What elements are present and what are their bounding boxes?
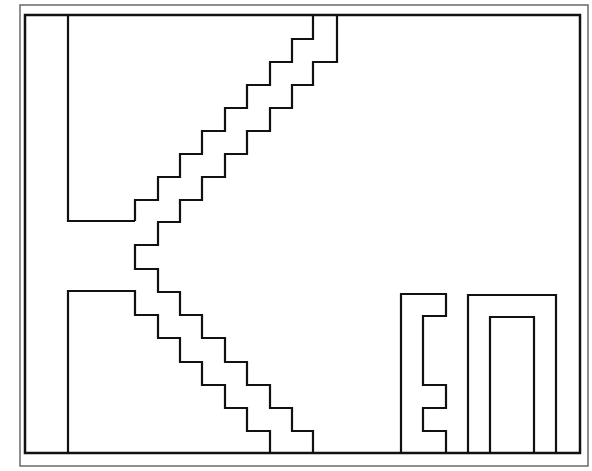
outer-u-shape [468, 295, 556, 453]
inner-u-shape [490, 317, 534, 453]
central-staircase [135, 15, 337, 453]
lower-left-staircase [68, 291, 270, 453]
outer-frame [20, 5, 588, 466]
diagram-canvas [0, 0, 592, 471]
shape-group [68, 15, 556, 453]
inner-frame [25, 15, 580, 453]
upper-left-block [68, 15, 135, 221]
e-shape [401, 294, 446, 453]
upper-left-staircase [135, 15, 313, 221]
